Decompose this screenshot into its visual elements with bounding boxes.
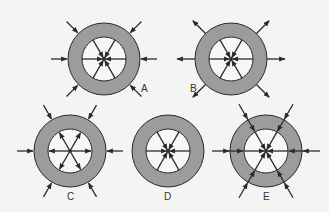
outward-arrow-icon — [256, 84, 269, 97]
inward-arrow-icon — [89, 183, 97, 197]
panel-label: B — [190, 83, 197, 94]
center-point — [264, 149, 268, 153]
panel-label: C — [67, 191, 74, 202]
panel-a: A — [51, 22, 157, 97]
inward-arrow-icon — [285, 183, 294, 198]
inward-arrow-icon — [239, 104, 248, 119]
inward-arrow-icon — [89, 105, 97, 119]
center-point — [166, 149, 170, 153]
inward-arrow-icon — [130, 22, 141, 33]
panel-b: B — [177, 21, 285, 97]
inward-arrow-icon — [44, 105, 52, 119]
panel-label: D — [164, 191, 171, 202]
panel-label: A — [141, 83, 148, 94]
outward-arrow-icon — [256, 21, 269, 34]
panels-group: ABCDE — [17, 21, 320, 202]
center-point — [229, 57, 233, 61]
panel-c: C — [17, 105, 123, 202]
center-point — [68, 149, 72, 153]
outward-arrow-icon — [193, 21, 206, 34]
center-point — [102, 57, 106, 61]
inward-arrow-icon — [44, 183, 52, 197]
panel-e: E — [212, 104, 320, 202]
inward-arrow-icon — [285, 104, 294, 119]
inward-arrow-icon — [67, 85, 78, 96]
stress-ring-diagram: ABCDE — [0, 0, 329, 212]
inward-arrow-icon — [239, 183, 248, 198]
inward-arrow-icon — [67, 22, 78, 33]
panel-d: D — [132, 115, 204, 202]
inward-arrow-icon — [130, 85, 141, 96]
panel-label: E — [263, 191, 270, 202]
